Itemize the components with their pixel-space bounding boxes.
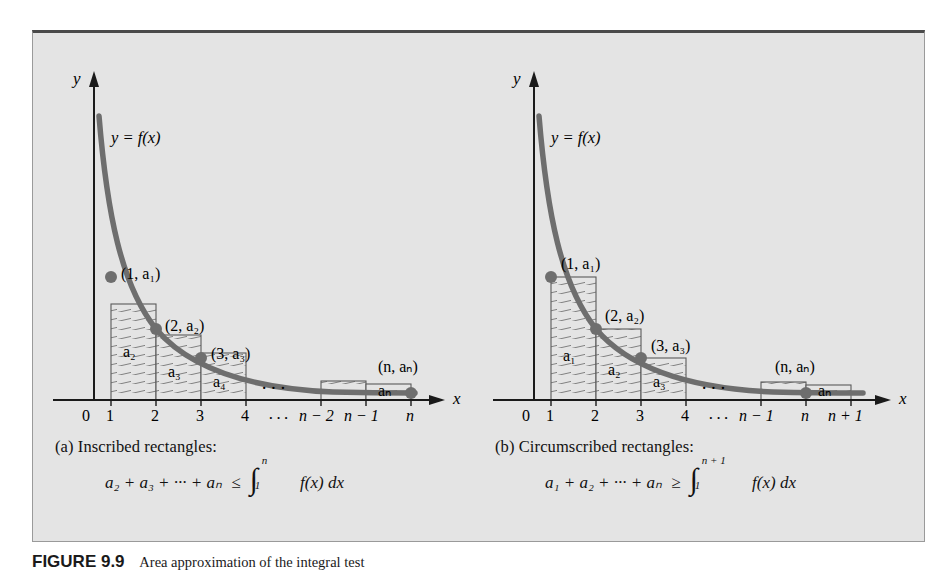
x-tick-3: 3: [636, 407, 644, 425]
x-tick-0: 0: [82, 407, 90, 425]
figure-number-label: FIGURE 9.9: [32, 552, 125, 571]
figure-frame: y x y = f(x) (1, a₁) (2, a₂) (3, a₃) (n,…: [32, 30, 925, 542]
panel-inscribed-rectangles: y x y = f(x) (1, a₁) (2, a₂) (3, a₃) (n,…: [33, 33, 479, 545]
x-tick-n-minus-2: n − 2: [299, 407, 334, 425]
figure-caption-text: Area approximation of the integral test: [129, 554, 364, 570]
x-axis-arrow: [875, 395, 891, 405]
x-tick-4: 4: [241, 407, 249, 425]
x-tick-2: 2: [591, 407, 599, 425]
x-tick-2: 2: [151, 407, 159, 425]
panel-circumscribed-rectangles: y x y = f(x) (1, a₁) (2, a₂) (3, a₃) (n,…: [473, 33, 919, 545]
figure-bottom-caption: FIGURE 9.9 Area approximation of the int…: [32, 552, 922, 573]
formula-a-relation: ≤: [226, 473, 245, 492]
panel-b-plot: [473, 33, 919, 433]
panel-a-caption-block: (a) Inscribed rectangles: a₂ + a₃ + ··· …: [55, 437, 475, 493]
curve-label: y = f(x): [111, 128, 161, 148]
rect-label-an: aₙ: [378, 381, 391, 400]
rect-label-a2: a₂: [608, 361, 621, 379]
integral-symbol-b: ∫ n + 1 1: [690, 471, 748, 488]
x-tick-n-minus-1: n − 1: [739, 407, 774, 425]
rect-label-a1: a₁: [563, 347, 576, 365]
point-label-2: (2, a₂): [605, 307, 644, 325]
point-label-3: (3, a₃): [651, 337, 690, 355]
rect-label-a2: a₂: [123, 343, 136, 361]
x-tick-n: n: [406, 407, 414, 425]
x-axis-arrow: [429, 395, 445, 405]
x-tick-n-plus-1: n + 1: [828, 407, 863, 425]
x-tick-3: 3: [196, 407, 204, 425]
x-tick-n-minus-1: n − 1: [344, 407, 379, 425]
plot-ellipsis: ···: [261, 377, 289, 399]
integral-upper-b: n + 1: [702, 454, 726, 466]
point-label-n: (n, aₙ): [775, 357, 815, 376]
y-axis-label: y: [513, 69, 521, 89]
point-label-1: (1, a₁): [561, 255, 600, 273]
panel-a-formula: a₂ + a₃ + ··· + aₙ ≤ ∫ n 1 f(x) dx: [105, 471, 475, 493]
curve-label: y = f(x): [551, 128, 601, 148]
rect-label-a4: a₄: [213, 373, 226, 391]
x-tick-4: 4: [681, 407, 689, 425]
integral-symbol-a: ∫ n 1: [250, 471, 296, 488]
point-label-3: (3, a₃): [211, 345, 250, 363]
x-tick-1: 1: [106, 407, 114, 425]
point-label-1: (1, a₁): [121, 265, 160, 283]
point-label-n: (n, aₙ): [378, 357, 418, 376]
y-axis-arrow: [89, 71, 99, 87]
x-tick-ellipsis: ···: [268, 409, 291, 429]
formula-b-relation: ≥: [666, 473, 685, 492]
formula-b-lhs: a₁ + a₂ + ··· + aₙ: [545, 473, 662, 492]
formula-a-lhs: a₂ + a₃ + ··· + aₙ: [105, 473, 222, 492]
formula-b-integrand: f(x) dx: [752, 473, 796, 492]
x-tick-n: n: [801, 407, 809, 425]
rect-label-an: aₙ: [818, 381, 831, 400]
rect-label-a3: a₃: [168, 363, 181, 381]
panel-b-caption-block: (b) Circumscribed rectangles: a₁ + a₂ + …: [495, 437, 915, 493]
rect-label-a3: a₃: [653, 373, 666, 391]
x-axis-label: x: [453, 389, 461, 409]
formula-a-integrand: f(x) dx: [300, 473, 344, 492]
y-axis-arrow: [529, 71, 539, 87]
x-axis-label: x: [899, 389, 907, 409]
panel-b-formula: a₁ + a₂ + ··· + aₙ ≥ ∫ n + 1 1 f(x) dx: [545, 471, 915, 493]
plot-ellipsis: ···: [701, 377, 729, 399]
integral-lower-b: 1: [695, 479, 701, 491]
point-label-2: (2, a₂): [165, 317, 204, 335]
x-tick-0: 0: [522, 407, 530, 425]
x-tick-1: 1: [546, 407, 554, 425]
integral-lower-a: 1: [255, 479, 261, 491]
integral-upper-a: n: [262, 454, 268, 466]
x-tick-ellipsis: ···: [708, 409, 731, 429]
y-axis-label: y: [73, 69, 81, 89]
